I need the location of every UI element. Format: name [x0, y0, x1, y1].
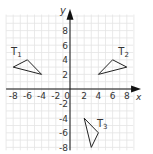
y-axis-label: y — [59, 5, 67, 16]
y-axis-arrow-icon — [67, 9, 74, 20]
x-tick-label: 4 — [96, 91, 102, 101]
coordinate-plane: -8-6-4-202468-8-6-4-22468 T1T2T3 x y — [0, 0, 153, 154]
x-tick-label: -8 — [9, 91, 18, 101]
y-tick-label: -8 — [59, 143, 68, 153]
x-axis-label: x — [135, 92, 142, 102]
y-tick-label: -6 — [59, 128, 68, 138]
y-tick-label: 2 — [62, 70, 68, 80]
y-tick-label: -2 — [59, 99, 68, 109]
y-tick-label: 8 — [62, 26, 68, 36]
y-tick-label: 4 — [62, 55, 68, 65]
y-tick-label: 6 — [62, 41, 68, 51]
x-tick-label: 2 — [81, 91, 87, 101]
x-tick-label: -6 — [23, 91, 32, 101]
axes — [6, 9, 141, 151]
x-tick-label: -4 — [37, 91, 46, 101]
x-tick-label: 8 — [124, 91, 130, 101]
x-tick-label: 6 — [110, 91, 116, 101]
y-tick-label: -4 — [59, 114, 68, 124]
